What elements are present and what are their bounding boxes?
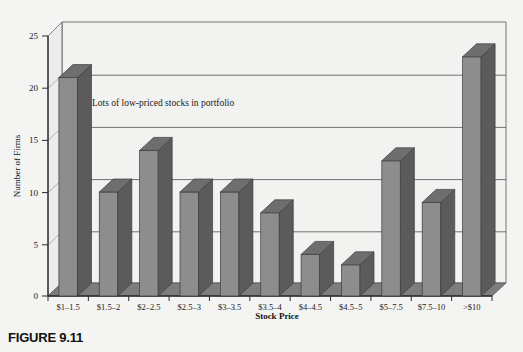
bar-chart-svg: 0 5 10 15 20 25 Number of Firms $1–1.5$1… (0, 0, 523, 322)
figure-caption: FIGURE 9.11 (8, 330, 83, 345)
figure-page: 0 5 10 15 20 25 Number of Firms $1–1.5$1… (0, 0, 523, 352)
y-tick-label: 20 (29, 83, 39, 93)
x-tick-label: >$10 (463, 302, 481, 312)
x-tick-label: $2–2.5 (137, 302, 160, 312)
bar-side-face (481, 44, 495, 296)
bar-side-face (199, 179, 213, 296)
bar-front-face (220, 192, 239, 296)
bar-front-face (59, 78, 78, 296)
bar-side-face (158, 137, 172, 296)
bar (382, 148, 415, 296)
bar-side-face (279, 200, 293, 296)
bar-side-face (441, 189, 455, 296)
bar-front-face (261, 213, 280, 296)
y-axis-tick-labels: 0 5 10 15 20 25 (29, 31, 39, 301)
bar-side-face (77, 65, 91, 296)
x-tick-label: $1–1.5 (56, 302, 79, 312)
bar (463, 44, 496, 296)
bar (99, 179, 132, 296)
x-tick-label: $7.5–10 (418, 302, 446, 312)
bar-front-face (99, 192, 118, 296)
y-tick-label: 25 (29, 31, 39, 41)
bar (59, 65, 92, 296)
x-tick-label: $2.5–3 (178, 302, 201, 312)
x-tick-label: $4.5–5 (339, 302, 362, 312)
bar-front-face (140, 150, 159, 296)
bar (261, 200, 294, 296)
bar-side-face (118, 179, 132, 296)
x-axis-ticks (48, 296, 492, 301)
bar (140, 137, 173, 296)
bar-front-face (422, 202, 441, 296)
x-tick-label: $3–3.5 (218, 302, 241, 312)
x-axis-title: Stock Price (255, 311, 299, 321)
bar-side-face (239, 179, 253, 296)
y-tick-label: 0 (34, 291, 39, 301)
bar (422, 189, 455, 296)
y-axis-title: Number of Firms (12, 134, 22, 197)
bar-side-face (400, 148, 414, 296)
y-tick-label: 5 (34, 240, 39, 250)
bar (220, 179, 253, 296)
bar-front-face (341, 265, 360, 296)
bar-front-face (382, 161, 401, 296)
y-tick-label: 15 (29, 135, 39, 145)
x-tick-label: $4–4.5 (299, 302, 322, 312)
bar-front-face (301, 254, 320, 296)
x-tick-label: $1.5–2 (97, 302, 120, 312)
bar (180, 179, 213, 296)
chart-annotation: Lots of low-priced stocks in portfolio (92, 98, 234, 108)
bar-front-face (463, 57, 482, 296)
y-axis-ticks (42, 36, 48, 296)
bar-front-face (180, 192, 199, 296)
x-tick-label: $5–7.5 (379, 302, 402, 312)
chart-figure: 0 5 10 15 20 25 Number of Firms $1–1.5$1… (0, 0, 523, 322)
y-tick-label: 10 (29, 188, 39, 198)
bar (301, 241, 334, 296)
